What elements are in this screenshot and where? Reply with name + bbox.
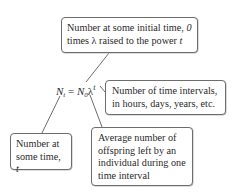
callout-number-at-time-t: Number at some time, t xyxy=(10,133,72,170)
callout-text-italic: t xyxy=(16,163,19,174)
callout-initial-number: Number at some initial time, 0 times λ r… xyxy=(61,17,198,53)
callout-text-italic: 0 xyxy=(186,22,191,33)
callout-text: individual during one xyxy=(98,157,187,170)
connector-left xyxy=(42,96,60,133)
connector-bottom xyxy=(90,95,102,127)
callout-text: Number at xyxy=(16,138,66,151)
connector-top xyxy=(86,53,109,82)
callout-text: offspring left by an xyxy=(98,145,187,158)
callout-text: time interval xyxy=(98,170,187,183)
callout-text: Average number of xyxy=(98,132,187,145)
callout-text: in hours, days, years, etc. xyxy=(112,98,220,111)
callout-text: Number of time intervals, xyxy=(112,85,220,98)
callout-time-intervals: Number of time intervals, in hours, days… xyxy=(105,80,226,115)
callout-text: some time, xyxy=(16,151,61,162)
eq-exponent: t xyxy=(93,83,95,92)
callout-lambda-definition: Average number of offspring left by an i… xyxy=(91,127,193,186)
eq-equals: = xyxy=(65,85,77,97)
callout-text: times λ raised to the power xyxy=(67,35,179,46)
callout-text: Number at some initial time, xyxy=(67,22,186,33)
callout-text-italic: t xyxy=(179,35,182,46)
exponential-growth-equation: Nt = N0λt xyxy=(56,83,95,99)
